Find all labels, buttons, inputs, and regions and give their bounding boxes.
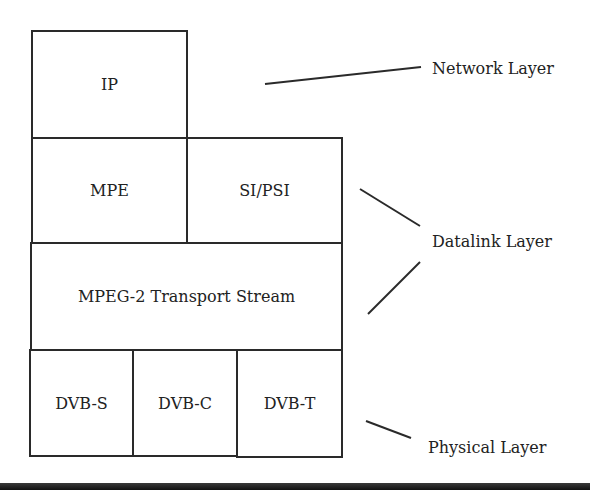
physical-leader-line <box>366 421 411 438</box>
physical-layer-label: Physical Layer <box>428 438 546 457</box>
network-leader-line <box>265 67 421 84</box>
bottom-border-bar <box>0 483 590 490</box>
network-layer-label: Network Layer <box>432 59 554 78</box>
datalink-layer-label: Datalink Layer <box>432 232 552 251</box>
datalink-leader-line-upper <box>360 189 420 226</box>
datalink-leader-line-lower <box>368 262 420 314</box>
